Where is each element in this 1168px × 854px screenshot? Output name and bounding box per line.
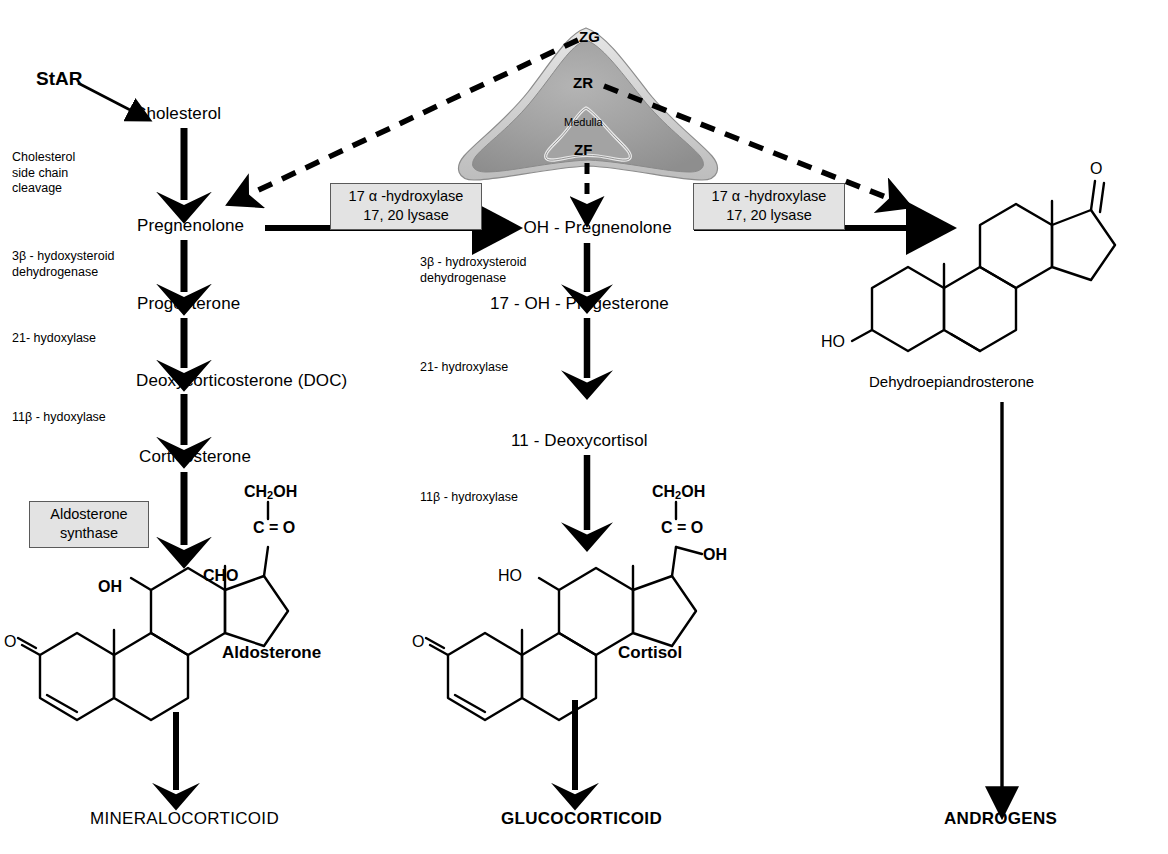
enzyme-box-cyp17-left: 17 α -hydroxylase 17, 20 lysase xyxy=(330,183,482,230)
cortisol-c-o-label: C = O xyxy=(661,519,703,538)
enzyme-cholesterol-side-chain-cleavage: Cholesterol side chain cleavage xyxy=(12,150,75,197)
metabolite-progesterone: Progesterone xyxy=(137,294,240,314)
metabolite-11-deoxycortisol: 11 - Deoxycortisol xyxy=(511,431,648,451)
product-name-aldosterone: Aldosterone xyxy=(222,643,321,663)
steroidogenesis-diagram: StAR Cholesterol Pregnenolone Progestero… xyxy=(0,0,1168,854)
cortisol-ch2oh-label: CH2OH xyxy=(652,483,705,502)
enzyme-21-hydroxylase-middle: 21- hydroxylase xyxy=(420,360,508,376)
metabolite-cholesterol: Cholesterol xyxy=(134,104,221,124)
aldosterone-oh-label: OH xyxy=(98,578,122,597)
aldosterone-ketone-o-label: O xyxy=(4,633,16,652)
star-protein-label: StAR xyxy=(36,68,82,90)
cortisol-17oh-label: OH xyxy=(703,546,727,565)
aldosterone-cho-label: CHO xyxy=(203,567,239,586)
enzyme-box-aldosterone-synthase: Aldosterone synthase xyxy=(29,501,149,548)
gland-zone-label-zr: ZR xyxy=(573,74,593,92)
gland-medulla-label: Medulla xyxy=(564,116,603,129)
output-class-glucocorticoid: GLUCOCORTICOID xyxy=(501,809,662,829)
metabolite-deoxycorticosterone: Deoxycorticosterone (DOC) xyxy=(136,371,347,391)
output-class-mineralocorticoid: MINERALOCORTICOID xyxy=(90,809,279,829)
gland-zone-label-zg: ZG xyxy=(579,28,600,46)
enzyme-11beta-hydroxylase-middle: 11β - hydroxylase xyxy=(420,490,518,506)
dhea-structure xyxy=(852,181,1115,351)
enzyme-21-hydroxylase-left: 21- hydoxylase xyxy=(12,331,96,347)
metabolite-corticosterone: Corticosterone xyxy=(139,447,251,467)
product-name-dhea: Dehydroepiandrosterone xyxy=(869,373,1034,391)
metabolite-pregnenolone: Pregnenolone xyxy=(137,216,244,236)
enzyme-3beta-hsd-left: 3β - hydoxysteroid dehydrogenase xyxy=(12,249,114,280)
dhea-ketone-o-label: O xyxy=(1090,160,1102,179)
metabolite-17oh-progesterone: 17 - OH - Progesterone xyxy=(490,294,669,314)
aldosterone-ch2oh-label: CH2OH xyxy=(244,483,297,502)
aldosterone-c-o-label: C = O xyxy=(253,519,295,538)
gland-zone-label-zf: ZF xyxy=(574,141,592,159)
enzyme-11beta-hydroxylase-left: 11β - hydoxylase xyxy=(12,410,106,426)
star-to-cholesterol-arrow xyxy=(78,83,134,112)
dhea-3ho-label: HO xyxy=(821,333,845,352)
cortisol-ketone-o-label: O xyxy=(412,633,424,652)
product-name-cortisol: Cortisol xyxy=(618,643,682,663)
cortisol-11ho-label: HO xyxy=(498,567,522,586)
output-class-androgens: ANDROGENS xyxy=(944,809,1057,829)
enzyme-box-cyp17-right: 17 α -hydroxylase 17, 20 lysase xyxy=(693,183,845,230)
enzyme-3beta-hsd-middle: 3β - hydroxysteroid dehydrogenase xyxy=(420,255,527,286)
metabolite-17oh-pregnenolone: 17 - OH - Pregnenolone xyxy=(489,218,672,238)
